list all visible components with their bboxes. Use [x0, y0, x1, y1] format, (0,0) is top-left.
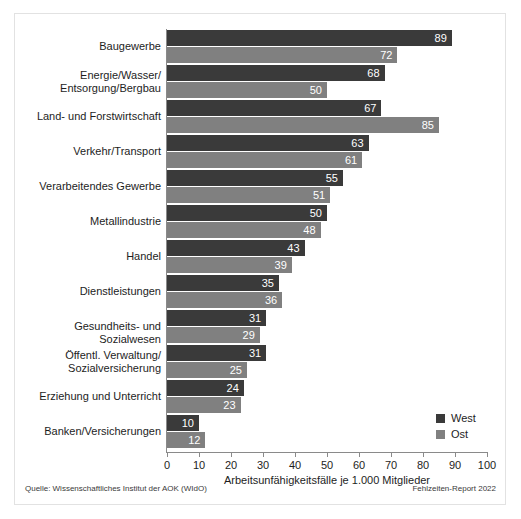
plot-area: 8972685067856361555150484339353631293125…	[167, 29, 487, 452]
bar-west: 43	[167, 240, 305, 256]
legend-swatch-icon	[436, 414, 445, 423]
category-label-line: Gesundheits- und Sozialwesen	[11, 320, 161, 346]
category-label-line: Land- und Forstwirtschaft	[11, 110, 161, 123]
bar-value-label: 67	[364, 103, 376, 114]
category-label-line: Banken/Versicherungen	[11, 425, 161, 438]
x-axis-tick-label: 50	[321, 459, 333, 471]
x-axis-tick-label: 90	[449, 459, 461, 471]
bar-value-label: 43	[287, 243, 299, 254]
category-label: Handel	[11, 250, 161, 263]
category-label-line: Entsorgung/Bergbau	[11, 82, 161, 95]
bar-value-label: 72	[380, 50, 392, 61]
bar-group: 6785	[167, 100, 487, 133]
bar-value-label: 50	[310, 85, 322, 96]
category-label: Energie/Wasser/Entsorgung/Bergbau	[11, 69, 161, 95]
bar-group: 5048	[167, 205, 487, 238]
x-axis-tick-mark	[423, 452, 424, 457]
category-label-line: Metallindustrie	[11, 215, 161, 228]
category-label: Banken/Versicherungen	[11, 425, 161, 438]
bar-west: 68	[167, 65, 385, 81]
bar-west: 55	[167, 170, 343, 186]
category-label: Erziehung und Unterricht	[11, 390, 161, 403]
bar-value-label: 50	[310, 208, 322, 219]
report-note: Fehlzeiten-Report 2022	[412, 484, 496, 493]
x-axis-tick-label: 40	[289, 459, 301, 471]
bar-ost: 29	[167, 327, 260, 343]
category-label: Metallindustrie	[11, 215, 161, 228]
category-label-line: Sozialversicherung	[11, 362, 161, 375]
bar-west: 89	[167, 30, 452, 46]
legend-label: Ost	[451, 428, 468, 440]
bar-ost: 23	[167, 397, 241, 413]
bar-value-label: 31	[249, 313, 261, 324]
bar-group: 6850	[167, 65, 487, 98]
x-axis-tick-mark	[455, 452, 456, 457]
category-label: Verkehr/Transport	[11, 145, 161, 158]
x-axis-tick-mark	[487, 452, 488, 457]
x-axis-tick-label: 80	[417, 459, 429, 471]
x-axis-tick-label: 60	[353, 459, 365, 471]
x-axis-tick-label: 0	[164, 459, 170, 471]
bar-value-label: 23	[223, 400, 235, 411]
bar-group: 2423	[167, 380, 487, 413]
x-axis-tick-mark	[295, 452, 296, 457]
chart-legend: WestOst	[436, 412, 476, 444]
bar-west: 24	[167, 380, 244, 396]
bar-ost: 25	[167, 362, 247, 378]
bar-ost: 51	[167, 187, 330, 203]
bar-west: 10	[167, 415, 199, 431]
bar-value-label: 68	[367, 68, 379, 79]
category-label-line: Verkehr/Transport	[11, 145, 161, 158]
x-axis-tick-mark	[359, 452, 360, 457]
category-label: Land- und Forstwirtschaft	[11, 110, 161, 123]
x-axis-tick-label: 10	[193, 459, 205, 471]
bar-west: 50	[167, 205, 327, 221]
bar-value-label: 25	[230, 365, 242, 376]
bar-value-label: 12	[188, 435, 200, 446]
bar-ost: 48	[167, 222, 321, 238]
bar-value-label: 63	[351, 138, 363, 149]
bar-ost: 39	[167, 257, 292, 273]
bar-value-label: 10	[182, 418, 194, 429]
bar-ost: 36	[167, 292, 282, 308]
x-axis-tick-label: 20	[225, 459, 237, 471]
bar-group: 3536	[167, 275, 487, 308]
category-label-line: Dienstleistungen	[11, 285, 161, 298]
x-axis-tick-mark	[167, 452, 168, 457]
bar-value-label: 55	[326, 173, 338, 184]
category-label-line: Energie/Wasser/	[11, 69, 161, 82]
category-label-line: Erziehung und Unterricht	[11, 390, 161, 403]
source-note: Quelle: Wissenschaftliches Institut der …	[25, 484, 207, 493]
bar-ost: 61	[167, 152, 362, 168]
category-label-line: Baugewerbe	[11, 40, 161, 53]
x-axis-tick-label: 70	[385, 459, 397, 471]
x-axis-tick-mark	[391, 452, 392, 457]
category-label-line: Öffentl. Verwaltung/	[11, 349, 161, 362]
bar-west: 35	[167, 275, 279, 291]
bar-value-label: 35	[262, 278, 274, 289]
bar-value-label: 29	[243, 330, 255, 341]
x-axis-tick-label: 100	[478, 459, 496, 471]
category-label: Gesundheits- und Sozialwesen	[11, 320, 161, 346]
bar-ost: 12	[167, 432, 205, 448]
bar-value-label: 24	[227, 383, 239, 394]
bar-value-label: 39	[275, 260, 287, 271]
legend-item: Ost	[436, 428, 476, 440]
category-label: Öffentl. Verwaltung/Sozialversicherung	[11, 349, 161, 375]
bar-value-label: 89	[435, 33, 447, 44]
x-axis-tick-mark	[199, 452, 200, 457]
bar-group: 3125	[167, 345, 487, 378]
bar-ost: 72	[167, 47, 397, 63]
chart-figure: BaugewerbeEnergie/Wasser/Entsorgung/Berg…	[0, 0, 521, 519]
bar-value-label: 51	[313, 190, 325, 201]
x-axis-tick-mark	[327, 452, 328, 457]
category-label-column: BaugewerbeEnergie/Wasser/Entsorgung/Berg…	[11, 29, 161, 452]
x-axis-tick-mark	[263, 452, 264, 457]
bar-west: 63	[167, 135, 369, 151]
bar-value-label: 61	[345, 155, 357, 166]
bar-group: 8972	[167, 30, 487, 63]
bar-group: 4339	[167, 240, 487, 273]
bar-value-label: 36	[265, 295, 277, 306]
category-label: Verarbeitendes Gewerbe	[11, 180, 161, 193]
category-label: Dienstleistungen	[11, 285, 161, 298]
